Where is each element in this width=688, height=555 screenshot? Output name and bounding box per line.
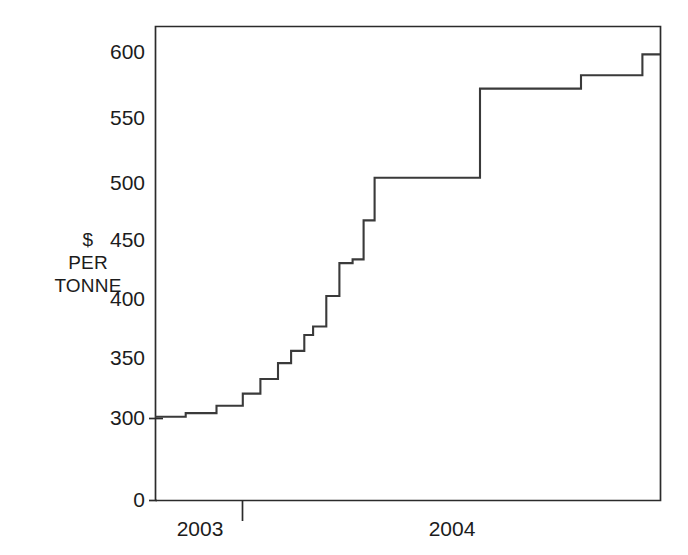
ytick-400-label: 400 bbox=[110, 288, 145, 309]
ytick-600-label: 600 bbox=[110, 41, 145, 62]
chart-root: $ PER TONNE 600 550 500 450 400 350 300 … bbox=[0, 0, 688, 555]
plot-frame-box bbox=[156, 27, 661, 501]
xtick-2004-label: 2004 bbox=[429, 518, 476, 539]
xtick-2003-label: 2003 bbox=[177, 518, 224, 539]
ytick-450-label: 450 bbox=[110, 229, 145, 250]
ytick-0-label: 0 bbox=[133, 489, 145, 510]
ytick-350-label: 350 bbox=[110, 347, 145, 368]
price-step-line bbox=[155, 54, 660, 416]
ytick-550-label: 550 bbox=[110, 107, 145, 128]
y-axis-title-line-2: PER bbox=[24, 251, 152, 274]
ytick-500-label: 500 bbox=[110, 172, 145, 193]
ytick-300-label: 300 bbox=[110, 407, 145, 428]
